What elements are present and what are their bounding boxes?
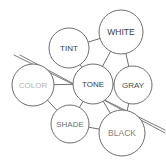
- node-label-color: COLOR: [19, 81, 48, 90]
- node-label-black: BLACK: [108, 128, 136, 138]
- node-label-white: WHITE: [107, 27, 135, 37]
- node-label-gray: GRAY: [122, 81, 145, 90]
- nodes-group: WHITETINTCOLORTONEGRAYSHADEBLACK: [12, 10, 152, 156]
- node-gray[interactable]: GRAY: [114, 66, 152, 104]
- node-black[interactable]: BLACK: [99, 110, 145, 156]
- node-shade[interactable]: SHADE: [51, 105, 89, 143]
- node-label-tint: TINT: [60, 44, 78, 53]
- edge-white-gray: [126, 53, 129, 66]
- node-tone[interactable]: TONE: [73, 64, 113, 104]
- edge-white-tone: [102, 51, 110, 66]
- edge-tone-shade: [79, 101, 83, 107]
- node-label-tone: TONE: [82, 80, 104, 89]
- edge-color-shade: [47, 100, 56, 110]
- node-label-shade: SHADE: [56, 120, 84, 129]
- graph-svg: WHITETINTCOLORTONEGRAYSHADEBLACK: [0, 0, 166, 164]
- node-white[interactable]: WHITE: [99, 10, 143, 54]
- node-tint[interactable]: TINT: [49, 28, 89, 68]
- node-color[interactable]: COLOR: [12, 64, 54, 106]
- diagram-canvas: WHITETINTCOLORTONEGRAYSHADEBLACK: [0, 0, 166, 164]
- edge-shade-black: [89, 127, 100, 129]
- edge-gray-black: [127, 104, 129, 111]
- edge-tint-white: [88, 38, 100, 42]
